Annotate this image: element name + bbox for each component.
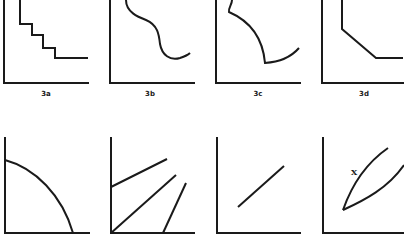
- panel-4d: X: [323, 138, 404, 233]
- panel-4b: [111, 138, 194, 233]
- axes-4c: [217, 138, 300, 233]
- piecewise-linear-curve: [342, 0, 403, 58]
- s-curve: [126, 0, 190, 59]
- line-segment: [238, 166, 284, 207]
- upper-curve: [343, 148, 388, 210]
- axes-4d: [323, 138, 404, 233]
- axes-3a: [4, 0, 88, 83]
- quarter-arc-curve: [5, 160, 73, 233]
- panel-label-3c: 3c: [253, 90, 262, 98]
- panel-3b: 3b: [110, 0, 194, 98]
- line-upper: [111, 159, 167, 187]
- line-steep: [163, 183, 186, 233]
- cusp-curve: [229, 0, 299, 63]
- axes-4b: [111, 138, 194, 233]
- panel-label-3a: 3a: [41, 90, 51, 98]
- panel-4a: [5, 138, 89, 233]
- panel-3a: 3a: [4, 0, 88, 98]
- x-marker-label: X: [351, 167, 358, 177]
- panel-3c: 3c: [216, 0, 300, 98]
- figure-canvas: 3a 3b 3c 3d X: [0, 0, 404, 234]
- axes-3b: [110, 0, 194, 83]
- panel-label-3b: 3b: [145, 90, 155, 98]
- panel-4c: [217, 138, 300, 233]
- panel-label-3d: 3d: [359, 90, 369, 98]
- panel-3d: 3d: [322, 0, 404, 98]
- staircase-curve: [20, 0, 88, 58]
- axes-3d: [322, 0, 404, 83]
